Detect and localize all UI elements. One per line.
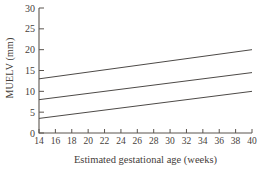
x-tick-label: 26 xyxy=(133,136,143,146)
x-tick-label: 24 xyxy=(116,136,126,146)
x-tick-label: 18 xyxy=(67,136,77,146)
x-tick-label: 34 xyxy=(198,136,208,146)
chart-plot: 0510152025301416182022242628303234363840 xyxy=(0,0,266,172)
chart-figure: 0510152025301416182022242628303234363840… xyxy=(0,0,266,172)
x-tick-label: 20 xyxy=(83,136,93,146)
x-tick-label: 22 xyxy=(100,136,110,146)
y-tick-label: 30 xyxy=(25,3,35,14)
x-tick-label: 28 xyxy=(149,136,159,146)
x-tick-label: 16 xyxy=(51,136,61,146)
y-axis-title: MUELV (mm) xyxy=(4,37,15,98)
x-tick-label: 40 xyxy=(247,136,257,146)
x-tick-label: 32 xyxy=(182,136,192,146)
x-tick-label: 36 xyxy=(214,136,224,146)
x-tick-label: 38 xyxy=(231,136,241,146)
x-tick-label: 30 xyxy=(165,136,175,146)
y-tick-label: 20 xyxy=(25,44,35,55)
y-tick-label: 5 xyxy=(30,107,35,118)
x-axis-title: Estimated gestational age (weeks) xyxy=(39,154,252,165)
y-tick-label: 15 xyxy=(25,65,35,76)
upper-percentile-line xyxy=(39,50,252,79)
y-tick-label: 10 xyxy=(25,86,35,97)
x-tick-label: 14 xyxy=(34,136,44,146)
y-tick-label: 25 xyxy=(25,23,35,34)
